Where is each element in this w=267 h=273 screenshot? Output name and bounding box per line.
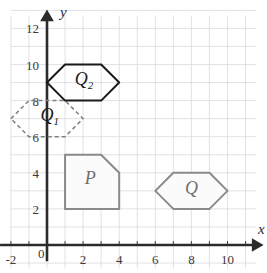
x-axis-label: x xyxy=(257,221,265,237)
shape-sublabel-Q2: 2 xyxy=(88,79,94,91)
origin-label: 0 xyxy=(38,246,45,261)
shape-label-P: P xyxy=(84,168,96,188)
x-tick-label-10: 10 xyxy=(221,252,234,267)
y-tick-label-2: 2 xyxy=(33,202,40,217)
x-tick-label--2: -2 xyxy=(5,252,16,267)
y-tick-label-10: 10 xyxy=(26,58,39,73)
x-tick-label-6: 6 xyxy=(152,252,159,267)
graph-canvas: -224681024681012 PQQ1Q2 y x 0 xyxy=(0,0,267,273)
shape-label-Q: Q xyxy=(185,178,198,198)
x-tick-label-8: 8 xyxy=(188,252,195,267)
shape-sublabel-Q1: 1 xyxy=(53,115,59,127)
x-tick-label-4: 4 xyxy=(116,252,123,267)
coordinate-plane-figure: -224681024681012 PQQ1Q2 y x 0 xyxy=(0,0,267,273)
x-tick-label-2: 2 xyxy=(80,252,87,267)
y-tick-label-12: 12 xyxy=(26,21,39,36)
y-axis-label: y xyxy=(58,4,67,20)
y-tick-label-4: 4 xyxy=(33,166,40,181)
